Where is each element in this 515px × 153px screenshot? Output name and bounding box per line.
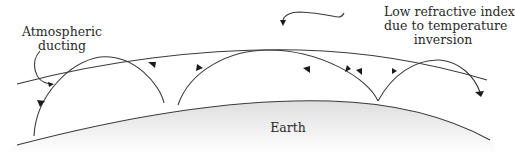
lowindex-label-line-3: inversion <box>384 33 502 47</box>
ray-arrow-up-2 <box>196 64 203 71</box>
ducting-label-line-1: Atmospheric <box>22 25 102 39</box>
ray-arrow-up-4 <box>392 68 397 74</box>
ray-arrow-down-2 <box>303 66 310 73</box>
ray-arrow-down-1 <box>148 62 156 68</box>
atmospheric-ducting-label: Atmospheric ducting <box>22 25 102 53</box>
ray-path-hop-2 <box>178 50 378 105</box>
ray-arrow-tail <box>475 91 484 97</box>
lowindex-leader-line <box>283 12 344 21</box>
inversion-layer-line <box>17 50 487 84</box>
lowindex-leader-arrow <box>280 20 286 26</box>
earth-region <box>0 101 501 153</box>
ducting-label-line-2: ducting <box>22 39 102 53</box>
lowindex-label-line-1: Low refractive index <box>384 5 502 19</box>
low-refractive-index-label: Low refractive index due to temperature … <box>384 5 502 47</box>
earth-label: Earth <box>263 121 313 135</box>
ray-arrow-down-3 <box>356 68 362 75</box>
ray-arrow-up-3 <box>345 65 351 72</box>
lowindex-label-line-2: due to temperature <box>384 19 502 33</box>
